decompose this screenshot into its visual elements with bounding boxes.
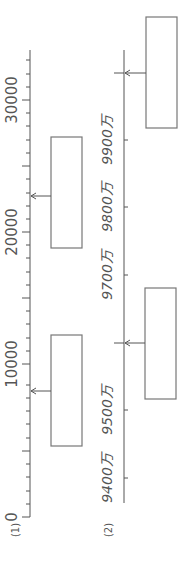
tick-label-2-9900: 9900万 xyxy=(99,113,115,165)
answer-box-2a[interactable] xyxy=(146,17,177,128)
tick-label-1-20000: 20000 xyxy=(3,208,21,256)
tick-label-2-9700: 9700万 xyxy=(99,248,115,300)
answer-box-1b[interactable] xyxy=(51,335,82,446)
answer-box-2b[interactable] xyxy=(145,288,176,399)
number-line-1 xyxy=(22,50,82,517)
number-line-worksheet: 0 10000 20000 30000 9400万 9500万 9700万 98… xyxy=(0,0,182,568)
tick-label-2-9800: 9800万 xyxy=(99,180,115,232)
problem-label-1: (1) xyxy=(10,523,21,537)
tick-label-2-9500: 9500万 xyxy=(99,383,115,435)
problem-label-2: (2) xyxy=(103,523,114,537)
tick-label-1-0: 0 xyxy=(3,512,21,522)
minor-ticks-1 xyxy=(22,60,30,517)
number-line-2 xyxy=(114,17,177,503)
answer-box-1a[interactable] xyxy=(51,137,82,248)
tick-label-2-9400: 9400万 xyxy=(99,451,115,503)
tick-label-1-30000: 30000 xyxy=(3,76,21,124)
tick-label-1-10000: 10000 xyxy=(3,340,21,388)
